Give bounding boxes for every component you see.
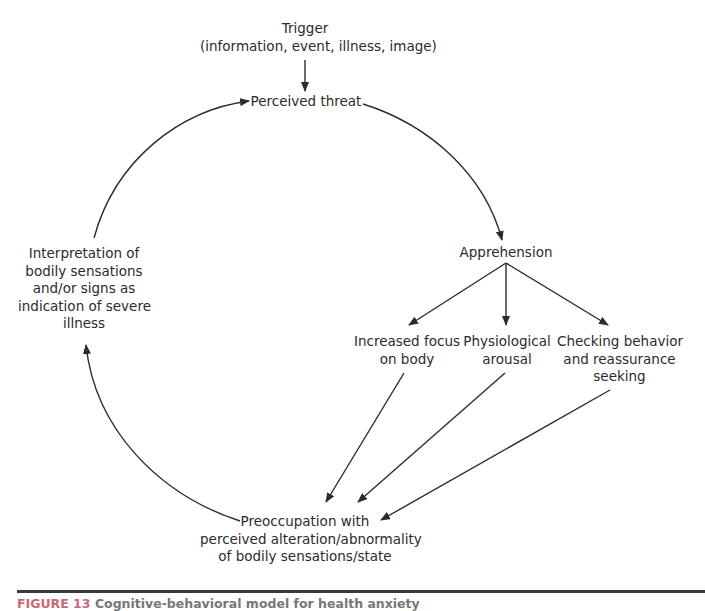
figure-caption: FIGURE 13 Cognitive-behavioral model for… — [17, 596, 420, 611]
node-increased-focus-line-1: Increased focus — [352, 333, 462, 351]
node-interpretation-line-5: illness — [18, 315, 150, 333]
edge-focus-to-preoccupation — [326, 373, 404, 502]
node-physiological-arousal-line-1: Physiological — [462, 333, 552, 351]
node-checking-behavior: Checking behavior and reassurance seekin… — [557, 333, 682, 386]
node-checking-behavior-line-2: and reassurance — [557, 351, 682, 369]
node-interpretation-line-1: Interpretation of — [18, 245, 150, 263]
node-perceived-threat-label: Perceived threat — [250, 93, 362, 111]
node-interpretation-line-3: and/or signs as — [18, 280, 150, 298]
edge-threat-to-apprehension — [363, 104, 502, 240]
node-preoccupation: Preoccupation with perceived alteration/… — [200, 513, 410, 566]
edge-preoccupation-to-interpretation — [86, 345, 240, 521]
node-preoccupation-line-2: perceived alteration/abnormality — [200, 531, 410, 549]
node-perceived-threat: Perceived threat — [250, 93, 362, 111]
node-checking-behavior-line-1: Checking behavior — [557, 333, 682, 351]
node-interpretation-line-2: bodily sensations — [18, 263, 150, 281]
node-physiological-arousal: Physiological arousal — [462, 333, 552, 368]
node-preoccupation-line-3: of bodily sensations/state — [200, 548, 410, 566]
caption-divider — [17, 590, 705, 593]
node-physiological-arousal-line-2: arousal — [462, 351, 552, 369]
node-interpretation: Interpretation of bodily sensations and/… — [18, 245, 150, 333]
edge-apprehension-to-checking — [506, 263, 608, 325]
node-increased-focus-line-2: on body — [352, 351, 462, 369]
node-apprehension-label: Apprehension — [455, 244, 557, 262]
node-apprehension: Apprehension — [455, 244, 557, 262]
edge-arousal-to-preoccupation — [358, 373, 505, 502]
node-trigger-line-2: (information, event, illness, image) — [200, 38, 410, 56]
edge-apprehension-to-focus — [409, 263, 506, 325]
node-checking-behavior-line-3: seeking — [557, 368, 682, 386]
node-interpretation-line-4: indication of severe — [18, 298, 150, 316]
figure-label: FIGURE 13 — [17, 596, 91, 611]
edge-checking-to-preoccupation — [381, 390, 610, 520]
edge-interpretation-to-threat — [94, 101, 249, 238]
figure-caption-text: Cognitive-behavioral model for health an… — [95, 596, 420, 611]
node-trigger: Trigger (information, event, illness, im… — [200, 20, 410, 55]
node-increased-focus: Increased focus on body — [352, 333, 462, 368]
node-preoccupation-line-1: Preoccupation with — [200, 513, 410, 531]
node-trigger-line-1: Trigger — [200, 20, 410, 38]
